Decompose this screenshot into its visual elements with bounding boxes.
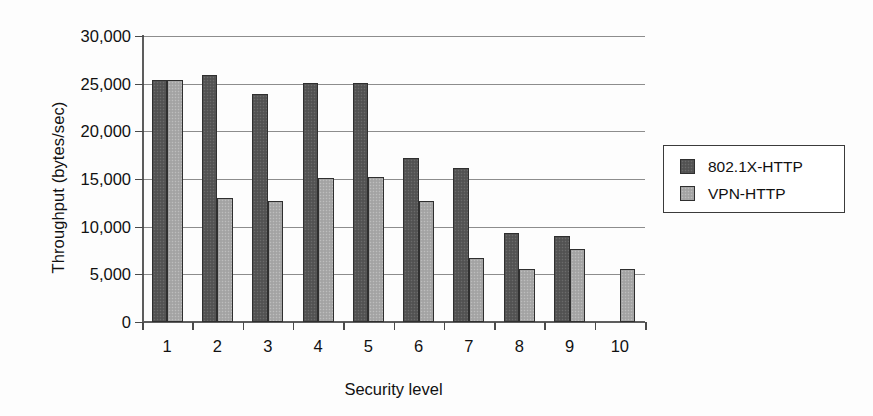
x-tick-label: 2 <box>213 337 222 356</box>
bar <box>202 75 218 322</box>
legend-swatch <box>680 159 695 174</box>
y-tick-mark <box>135 179 144 180</box>
y-tick-mark <box>135 227 144 228</box>
y-axis-title: Throughput (bytes/sec) <box>49 38 68 338</box>
y-tick-label: 15,000 <box>81 170 131 189</box>
bar <box>318 178 334 322</box>
plot-area: 05,00010,00015,00020,00025,00030,000 123… <box>142 36 645 322</box>
bar <box>469 258 485 322</box>
x-tick-mark <box>494 322 496 330</box>
y-tick-mark <box>135 36 144 37</box>
y-tick-mark <box>135 131 144 132</box>
y-tick-label: 30,000 <box>81 27 131 46</box>
bar <box>303 83 319 322</box>
bar <box>419 201 435 322</box>
y-tick-label: 5,000 <box>90 265 131 284</box>
bar <box>554 236 570 322</box>
bar <box>504 233 520 322</box>
x-tick-label: 6 <box>414 337 423 356</box>
x-tick-label: 3 <box>263 337 272 356</box>
x-tick-mark <box>595 322 597 330</box>
bar <box>570 249 586 322</box>
bar <box>519 269 535 322</box>
legend-label: 802.1X-HTTP <box>708 158 803 176</box>
legend-label: VPN-HTTP <box>708 185 786 203</box>
legend-item: 802.1X-HTTP <box>680 153 844 180</box>
legend-swatch <box>680 186 695 201</box>
x-tick-mark <box>645 322 647 330</box>
chart-legend: 802.1X-HTTPVPN-HTTP <box>663 145 845 213</box>
x-tick-mark <box>544 322 546 330</box>
x-tick-mark <box>142 322 144 330</box>
bar <box>620 269 636 322</box>
bar <box>252 94 268 322</box>
bar <box>268 201 284 322</box>
gridline <box>142 131 645 132</box>
x-tick-label: 7 <box>464 337 473 356</box>
bar <box>453 168 469 322</box>
gridline <box>142 179 645 180</box>
legend-item: VPN-HTTP <box>680 180 844 207</box>
bar <box>152 80 168 322</box>
y-tick-label: 10,000 <box>81 217 131 236</box>
x-tick-mark <box>444 322 446 330</box>
x-tick-mark <box>293 322 295 330</box>
x-tick-mark <box>343 322 345 330</box>
gridline <box>142 36 645 37</box>
x-tick-mark <box>243 322 245 330</box>
y-tick-label: 20,000 <box>81 122 131 141</box>
x-tick-label: 4 <box>313 337 322 356</box>
y-tick-mark <box>135 274 144 275</box>
bar <box>403 158 419 322</box>
x-tick-label: 9 <box>565 337 574 356</box>
x-axis-title: Security level <box>142 380 645 399</box>
bar <box>368 177 384 322</box>
chart-figure: Throughput (bytes/sec) 05,00010,00015,00… <box>0 0 873 416</box>
bar <box>353 83 369 322</box>
y-tick-label: 25,000 <box>81 74 131 93</box>
x-tick-mark <box>394 322 396 330</box>
bar <box>167 80 183 322</box>
y-tick-mark <box>135 84 144 85</box>
y-tick-label: 0 <box>122 313 131 332</box>
x-tick-label: 5 <box>364 337 373 356</box>
x-tick-mark <box>192 322 194 330</box>
x-tick-label: 1 <box>163 337 172 356</box>
x-tick-label: 10 <box>611 337 629 356</box>
x-tick-label: 8 <box>515 337 524 356</box>
bar <box>217 198 233 322</box>
gridline <box>142 84 645 85</box>
